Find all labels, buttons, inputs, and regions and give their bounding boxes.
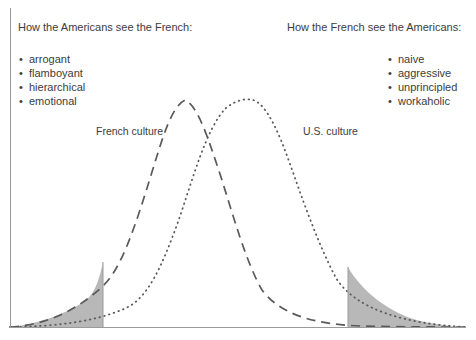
list-item-label: arrogant bbox=[29, 53, 70, 65]
diagram-canvas: How the Americans see the French: • arro… bbox=[0, 0, 476, 340]
list-item-label: unprincipled bbox=[398, 81, 457, 93]
bullet-icon: • bbox=[19, 80, 23, 94]
list-item-label: emotional bbox=[29, 95, 77, 107]
list-item-label: flamboyant bbox=[29, 67, 83, 79]
curve-label-french-culture: French culture bbox=[96, 125, 163, 138]
list-item: • hierarchical bbox=[18, 80, 85, 94]
bullet-icon: • bbox=[388, 66, 392, 80]
bullet-icon: • bbox=[19, 52, 23, 66]
list-item: • unprincipled bbox=[387, 80, 457, 94]
list-item: • flamboyant bbox=[18, 66, 85, 80]
bullet-icon: • bbox=[388, 80, 392, 94]
bullet-icon: • bbox=[388, 94, 392, 108]
right-bullet-list: • naive • aggressive • unprincipled • wo… bbox=[387, 52, 457, 108]
list-item: • emotional bbox=[18, 94, 85, 108]
list-item: • workaholic bbox=[387, 94, 457, 108]
left-panel-heading-wrap: How the Americans see the French: bbox=[18, 21, 192, 34]
shaded-area-us-right-tail bbox=[348, 267, 466, 327]
right-panel-list: • naive • aggressive • unprincipled • wo… bbox=[387, 52, 457, 108]
list-item-label: aggressive bbox=[398, 67, 451, 79]
bell-curve-plot bbox=[0, 0, 476, 340]
list-item-label: naive bbox=[398, 53, 424, 65]
curve-label-us-culture: U.S. culture bbox=[303, 125, 358, 138]
bullet-icon: • bbox=[19, 94, 23, 108]
list-item-label: workaholic bbox=[398, 95, 450, 107]
curve-french-culture bbox=[10, 100, 466, 327]
left-panel-heading: How the Americans see the French: bbox=[18, 21, 192, 34]
list-item: • naive bbox=[387, 52, 457, 66]
bullet-icon: • bbox=[19, 66, 23, 80]
right-panel-heading: How the French see the Americans: bbox=[287, 21, 461, 34]
list-item: • aggressive bbox=[387, 66, 457, 80]
bullet-icon: • bbox=[388, 52, 392, 66]
left-bullet-list: • arrogant • flamboyant • hierarchical •… bbox=[18, 52, 85, 108]
list-item-label: hierarchical bbox=[29, 81, 85, 93]
list-item: • arrogant bbox=[18, 52, 85, 66]
left-panel-list: • arrogant • flamboyant • hierarchical •… bbox=[18, 52, 85, 108]
curve-us-culture bbox=[10, 99, 466, 327]
right-panel-heading-wrap: How the French see the Americans: bbox=[287, 21, 461, 34]
